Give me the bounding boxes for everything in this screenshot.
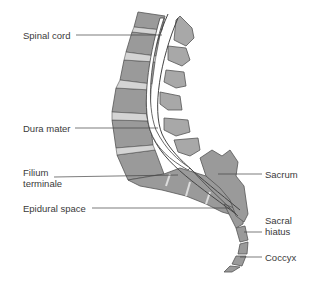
label-sacral-line1: Sacral: [265, 215, 292, 226]
label-filium-line1: Filium: [23, 167, 48, 178]
coccyx-segments: [224, 226, 248, 272]
spine-diagram: Spinal cord Dura mater Filium terminale …: [0, 0, 312, 284]
label-sacrum: Sacrum: [265, 169, 298, 180]
label-spinal-cord: Spinal cord: [23, 30, 71, 41]
spine-illustration: [0, 0, 312, 284]
label-filium-line2: terminale: [23, 178, 62, 189]
label-coccyx: Coccyx: [265, 252, 296, 263]
label-dura-mater: Dura mater: [23, 123, 71, 134]
label-epidural-space: Epidural space: [23, 203, 86, 214]
label-sacral-line2: hiatus: [265, 226, 290, 237]
spinous-processes: [160, 16, 200, 156]
